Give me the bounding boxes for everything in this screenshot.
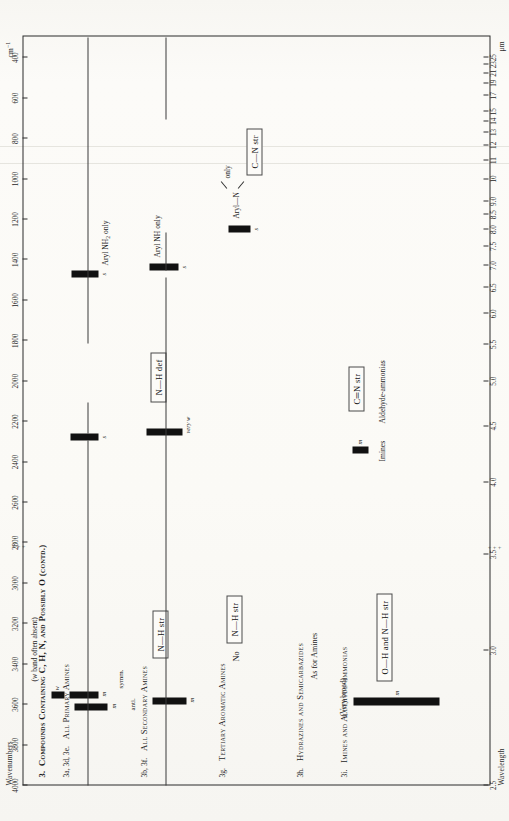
wavelength-tick <box>483 343 488 344</box>
band-cn-str-primary <box>71 270 98 277</box>
wavenumber-tick-label: 3000 <box>11 576 19 590</box>
no-nh-str-prefix: No <box>231 651 240 661</box>
band-intensity-m-symm: m <box>99 691 106 696</box>
note-very-broad: (Very broad) <box>338 677 347 716</box>
wavenumber-tick <box>22 420 27 421</box>
wavenumber-tick <box>22 178 27 179</box>
band-intensity-m-broad: m <box>392 690 399 695</box>
band-oh-nh-str-broad <box>353 697 439 705</box>
band-nh-str-weak <box>51 691 64 698</box>
wavelength-tick-label: 6.5 <box>489 283 497 292</box>
band-cn-str-secondary <box>149 263 178 270</box>
wavenumber-tick <box>22 137 27 138</box>
wavelength-tick <box>483 213 488 214</box>
wavelength-tick-label: 4.5 <box>489 421 497 430</box>
wavelength-tick-label: 19 <box>489 79 497 86</box>
row-label-primary-amines: 3a, 3d, 3e. All Primary Amines <box>60 663 70 777</box>
wavelength-tick <box>483 110 488 111</box>
wavelength-tick <box>483 200 488 201</box>
wavelength-tick-label: 8.5 <box>489 210 497 219</box>
band-nh-def-secondary <box>146 428 182 435</box>
wavelength-tick <box>483 94 488 95</box>
band-intensity-very-w: very w <box>183 416 190 433</box>
wavelength-tick-label: 9.0 <box>489 196 497 205</box>
wavelength-tick-label: 21 <box>489 69 497 76</box>
annotation-aryl-nh-only: Aryl NH only <box>152 215 161 257</box>
wavelength-tick-label: 12 <box>489 141 497 148</box>
wavelength-tick-label: 6.0 <box>489 309 497 318</box>
wavelength-tick-label: 5.5 <box>489 339 497 348</box>
wavenumber-tick-label: 1000 <box>11 171 19 185</box>
wavelength-tick-label: 8.0 <box>489 225 497 234</box>
wavenumber-tick <box>22 622 27 623</box>
band-intensity-s-nh-def: s <box>99 435 106 438</box>
wavelength-tick <box>483 784 488 785</box>
wavenumber-tick <box>22 339 27 340</box>
band-intensity-s-cn-secondary: s <box>179 265 186 268</box>
correlation-line-nh-def <box>87 440 88 785</box>
wavelength-tick-label: 7.5 <box>489 241 497 250</box>
wavelength-tick <box>483 178 488 179</box>
wavelength-tick <box>483 63 488 64</box>
correlation-line-cn-double <box>87 37 88 343</box>
plus-marker-top: +++ <box>11 545 26 548</box>
wavenumber-tick-label: 2000 <box>11 374 19 388</box>
band-intensity-w: w <box>52 686 59 690</box>
wavenumber-tick-label: 1800 <box>11 333 19 347</box>
wavelength-tick <box>483 144 488 145</box>
correlation-line-cn-str-2 <box>165 232 166 270</box>
note-w-band-often-absent: (w band often absent) <box>29 617 38 681</box>
wavenumber-tick <box>22 380 27 381</box>
wavelength-tick-label: 17 <box>489 92 497 99</box>
wavenumber-tick-label: 3400 <box>11 657 19 671</box>
assignment-box-nh-def: N—H def <box>150 352 166 402</box>
band-nh-str-symm <box>69 691 98 698</box>
wavenumber-tick-label: 2400 <box>11 454 19 468</box>
wavenumber-tick-label: 3600 <box>11 697 19 711</box>
wavenumber-tick <box>22 56 27 57</box>
correlation-line-nh-def-2 <box>87 402 88 433</box>
correlation-line-cn-str-3 <box>165 37 166 119</box>
wavelength-tick <box>483 82 488 83</box>
wavelength-tick <box>483 481 488 482</box>
wavenumber-tick-label: 2200 <box>11 414 19 428</box>
wavelength-tick <box>483 312 488 313</box>
wavelength-axis-title: Wavelength <box>496 748 505 785</box>
wavelength-tick-label: 3.0 <box>489 646 497 655</box>
wavelength-tick-label: 15 <box>489 108 497 115</box>
row-label-hydrazines: 3h. Hydrazines and Semicarbazides <box>294 642 304 777</box>
band-intensity-m-secondary: m <box>187 697 194 702</box>
wavelength-tick-label: 13 <box>489 128 497 135</box>
assignment-box-oh-nh-str: O—H and N—H str <box>376 593 392 681</box>
assignment-box-cn-double-str: C═N str <box>348 366 364 411</box>
wavelength-tick <box>483 649 488 650</box>
wavelength-tick <box>483 286 488 287</box>
note-as-for-amines: As for Amines <box>309 632 318 679</box>
wavenumber-tick <box>22 501 27 502</box>
assignment-box-cn-str: C—N str <box>246 128 262 175</box>
band-intensity-s-cn-tertiary: s <box>251 227 258 230</box>
band-nh-str-anti <box>74 703 107 710</box>
wavelength-tick <box>483 264 488 265</box>
wavelength-tick-label: 10 <box>489 175 497 182</box>
band-intensity-s-cn-primary: s <box>99 272 106 275</box>
wavelength-tick <box>483 380 488 381</box>
wavenumber-tick <box>22 582 27 583</box>
wavelength-tick-label: 5.0 <box>489 376 497 385</box>
wavelength-tick <box>483 159 488 160</box>
note-symm: symm. <box>116 669 124 688</box>
wavelength-tick-label: 11 <box>489 157 497 164</box>
wavenumber-tick-label: 1600 <box>11 293 19 307</box>
wavenumber-tick <box>22 299 27 300</box>
wavelength-tick <box>483 131 488 132</box>
wavelength-tick-label: 14 <box>489 117 497 124</box>
correlation-line-cn-str <box>165 277 166 785</box>
band-cn-double-str <box>352 446 368 453</box>
wavenumber-tick <box>22 218 27 219</box>
wavenumber-tick <box>22 703 27 704</box>
wavelength-tick <box>483 120 488 121</box>
plus-marker-bottom: +++ <box>487 546 502 549</box>
wavelength-tick <box>483 245 488 246</box>
wavelength-tick-label: 23 <box>489 61 497 68</box>
annotation-aryl-n-only: Aryl—N <box>231 192 240 218</box>
